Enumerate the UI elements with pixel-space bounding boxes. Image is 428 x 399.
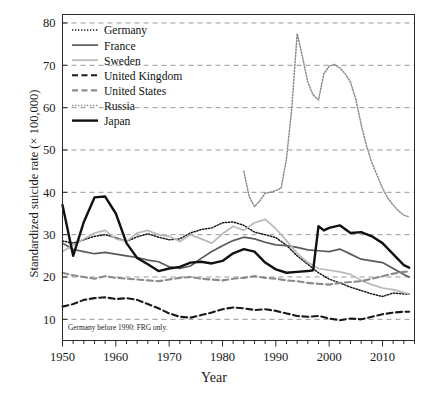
svg-text:50: 50 — [43, 143, 56, 157]
chart-annotation: Germany before 1990: FRG only. — [68, 323, 168, 332]
legend-label-france: France — [104, 40, 136, 53]
x-axis-ticks: 1950196019701980199020002010 — [50, 341, 415, 364]
svg-text:40: 40 — [43, 186, 56, 200]
svg-text:20: 20 — [43, 270, 56, 284]
svg-text:2010: 2010 — [370, 350, 395, 364]
svg-text:1970: 1970 — [157, 350, 182, 364]
series-line-united-kingdom — [63, 297, 410, 320]
legend-label-germany: Germany — [104, 24, 147, 37]
svg-text:60: 60 — [43, 101, 56, 115]
legend-label-japan: Japan — [104, 115, 131, 128]
svg-text:70: 70 — [43, 59, 56, 73]
svg-text:1990: 1990 — [263, 350, 288, 364]
legend-label-united-kingdom: United Kingdom — [104, 70, 182, 83]
svg-text:30: 30 — [43, 228, 56, 242]
svg-text:2000: 2000 — [317, 350, 342, 364]
plot-svg: 1020304050607080 19501960197019801990200… — [0, 0, 428, 399]
svg-text:1950: 1950 — [50, 350, 75, 364]
svg-text:10: 10 — [43, 313, 56, 327]
svg-text:1960: 1960 — [103, 350, 128, 364]
series-line-france — [63, 237, 410, 277]
svg-text:80: 80 — [43, 16, 56, 30]
legend-label-united-states: United States — [104, 85, 167, 98]
svg-text:1980: 1980 — [210, 350, 235, 364]
suicide-rate-line-chart: Standardized suicide rate (× 100,000) Ye… — [0, 0, 428, 399]
chart-legend: GermanyFranceSwedenUnited KingdomUnited … — [68, 19, 182, 128]
y-axis-ticks: 1020304050607080 — [43, 16, 68, 326]
legend-label-russia: Russia — [104, 100, 135, 113]
series-line-russia — [244, 34, 409, 217]
legend-label-sweden: Sweden — [104, 55, 141, 68]
